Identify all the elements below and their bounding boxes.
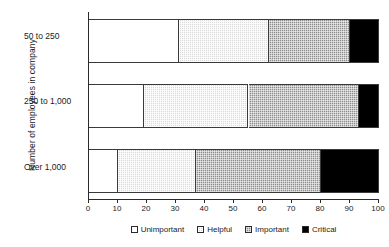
x-tick-80 [320, 199, 321, 203]
legend-label-helpful: Helpful [207, 225, 232, 234]
x-tick-40 [204, 199, 205, 203]
legend-label-critical: Critical [312, 225, 336, 234]
segment-unimportant [89, 149, 118, 193]
segment-helpful [179, 19, 269, 63]
segment-unimportant [89, 84, 144, 128]
segment-important [269, 19, 350, 63]
category-label-50-to-250: 50 to 250 [24, 31, 59, 41]
legend-item-critical: Critical [302, 225, 336, 234]
x-tick-label-30: 30 [171, 204, 180, 213]
x-tick-label-100: 100 [371, 204, 384, 213]
legend-label-unimportant: Unimportant [141, 225, 185, 234]
x-tick-label-60: 60 [258, 204, 267, 213]
x-tick-20 [146, 199, 147, 203]
unimportant-swatch-icon [131, 226, 138, 233]
segment-critical [321, 149, 379, 193]
segment-important [196, 149, 321, 193]
x-axis-tick-group: 0 10 20 30 40 50 60 70 80 90 100 [88, 199, 379, 219]
segment-helpful [118, 149, 196, 193]
x-tick-50 [233, 199, 234, 203]
chart-legend: Unimportant Helpful Important Critical [88, 222, 379, 236]
category-label-over-1000: Over 1,000 [24, 162, 66, 172]
segment-critical [359, 84, 379, 128]
x-tick-label-20: 20 [142, 204, 151, 213]
category-label-250-to-1000: 250 to 1,000 [24, 96, 71, 106]
x-tick-100 [378, 199, 379, 203]
helpful-swatch-icon [197, 226, 204, 233]
segment-unimportant [89, 19, 179, 63]
legend-item-unimportant: Unimportant [131, 225, 185, 234]
category-label-group: 50 to 250 250 to 1,000 Over 1,000 [0, 0, 88, 247]
x-tick-label-90: 90 [345, 204, 354, 213]
x-tick-label-80: 80 [316, 204, 325, 213]
important-swatch-icon [245, 226, 252, 233]
x-tick-label-50: 50 [229, 204, 238, 213]
x-tick-label-10: 10 [113, 204, 122, 213]
segment-important [249, 84, 359, 128]
x-tick-10 [117, 199, 118, 203]
legend-label-important: Important [255, 225, 289, 234]
plot-area [88, 12, 378, 199]
x-tick-0 [88, 199, 89, 203]
x-tick-label-70: 70 [287, 204, 296, 213]
critical-swatch-icon [302, 226, 309, 233]
segment-helpful [144, 84, 248, 128]
legend-item-important: Important [245, 225, 289, 234]
x-tick-30 [175, 199, 176, 203]
x-tick-label-40: 40 [200, 204, 209, 213]
segment-critical [350, 19, 379, 63]
legend-item-helpful: Helpful [197, 225, 232, 234]
stacked-bar-chart: Number of employees in company 50 to 250… [0, 0, 389, 247]
x-tick-70 [291, 199, 292, 203]
x-tick-label-0: 0 [86, 204, 90, 213]
x-tick-60 [262, 199, 263, 203]
x-tick-90 [349, 199, 350, 203]
